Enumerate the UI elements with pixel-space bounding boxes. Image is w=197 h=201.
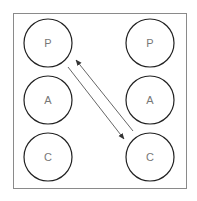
right-node-c: C [126,133,174,181]
arrow-c-to-p [76,60,133,131]
arrow-p-to-c [68,67,124,139]
node-label: C [44,151,52,163]
left-node-p: P [24,19,72,67]
right-node-a: A [126,76,174,124]
node-label: P [146,37,153,49]
left-node-c: C [24,133,72,181]
diagram-canvas: P A C P A C [0,0,197,201]
node-label: P [44,37,51,49]
node-label: C [146,151,154,163]
node-label: A [44,94,52,106]
left-node-a: A [24,76,72,124]
node-label: A [146,94,154,106]
right-node-p: P [126,19,174,67]
